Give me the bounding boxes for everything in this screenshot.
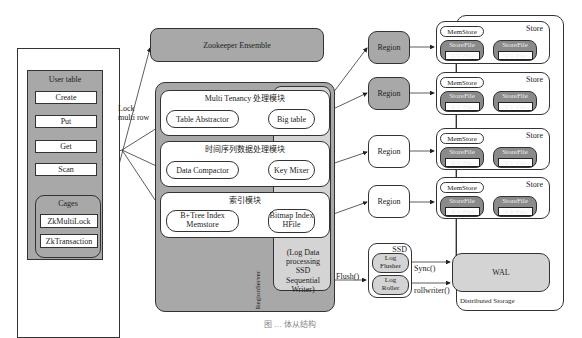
- store-label: Store: [526, 180, 543, 189]
- storefile[interactable]: StoreFile KV-File: [440, 91, 484, 112]
- kv-file: KV-File: [498, 102, 533, 111]
- storefile-label: StoreFile: [494, 41, 536, 49]
- region-server-label: RegionServer: [254, 271, 262, 310]
- region-1[interactable]: Region: [368, 31, 410, 64]
- table-abstractor[interactable]: Table Abstractor: [166, 110, 239, 128]
- module-title: Multi Tenancy 处理模块: [161, 94, 329, 103]
- memstore[interactable]: MemStore: [440, 26, 484, 37]
- storefile-label: StoreFile: [494, 92, 536, 100]
- lock-label-line1: Lock: [118, 104, 149, 113]
- user-table-title: User table: [28, 75, 102, 84]
- lock-label-line2: multi row: [118, 113, 149, 122]
- scan-button[interactable]: Scan: [35, 163, 97, 176]
- btree-index-memstore[interactable]: B+Tree Index Memstore: [166, 210, 239, 232]
- log-roller-line2: Roller: [382, 285, 400, 293]
- storefile[interactable]: StoreFile KV-File: [440, 40, 484, 61]
- storefile-label: StoreFile: [441, 41, 483, 49]
- storefile-label: StoreFile: [441, 197, 483, 205]
- memstore[interactable]: MemStore: [440, 182, 484, 193]
- storefile-label: StoreFile: [441, 92, 483, 100]
- store-label: Store: [526, 131, 543, 140]
- figure-caption: 图 … 体从结构: [200, 320, 380, 329]
- log-writer-line2: processing SSD: [278, 257, 328, 275]
- storefile-label: StoreFile: [441, 148, 483, 156]
- lock-label: Lock multi row: [118, 104, 149, 122]
- region-2[interactable]: Region: [368, 77, 410, 110]
- log-writer-line3: Sequential: [278, 276, 328, 285]
- storefile[interactable]: StoreFile KV-File: [493, 40, 537, 61]
- create-button[interactable]: Create: [35, 91, 97, 104]
- memstore[interactable]: MemStore: [440, 77, 484, 88]
- store-1: Store MemStore StoreFile KV-File StoreFi…: [436, 21, 550, 64]
- region-server-label-wrap: RegionServer: [251, 270, 265, 310]
- log-writer-line4: Writer): [278, 285, 328, 294]
- zkmultilock-button[interactable]: ZkMultiLock: [40, 214, 98, 228]
- kv-file: KV-File: [445, 207, 480, 216]
- memstore[interactable]: MemStore: [440, 133, 484, 144]
- data-compactor[interactable]: Data Compactor: [166, 161, 239, 179]
- kv-file: KV-File: [498, 51, 533, 60]
- storefile[interactable]: StoreFile KV-File: [493, 91, 537, 112]
- distributed-storage-label: Distributed Storage: [460, 297, 515, 305]
- kv-file: KV-File: [498, 158, 533, 167]
- kv-file: KV-File: [445, 102, 480, 111]
- zktransaction-button[interactable]: ZkTransaction: [40, 234, 98, 248]
- kv-file: KV-File: [445, 158, 480, 167]
- storefile[interactable]: StoreFile KV-File: [493, 147, 537, 168]
- region-3[interactable]: Region: [368, 135, 410, 168]
- kv-file: KV-File: [445, 51, 480, 60]
- zookeeper-ensemble[interactable]: Zookeeper Ensemble: [150, 28, 324, 62]
- flush-label: Flush(): [336, 272, 359, 281]
- region-4[interactable]: Region: [368, 185, 410, 218]
- store-2: Store MemStore StoreFile KV-File StoreFi…: [436, 72, 550, 115]
- store-4: Store MemStore StoreFile KV-File StoreFi…: [436, 177, 550, 219]
- cages-title: Cages: [36, 199, 100, 208]
- sync-label: Sync(): [414, 264, 435, 273]
- store-label: Store: [526, 24, 543, 33]
- store-3: Store MemStore StoreFile KV-File StoreFi…: [436, 128, 550, 170]
- storefile[interactable]: StoreFile KV-File: [440, 196, 484, 217]
- module-title: 时间序列数据处理模块: [161, 145, 329, 154]
- key-mixer[interactable]: Key Mixer: [268, 160, 315, 180]
- rollwriter-label: rollwriter(): [414, 286, 450, 295]
- log-writer-label: (Log Data processing SSD Sequential Writ…: [278, 248, 328, 294]
- log-flusher-line2: Flusher: [380, 263, 401, 271]
- storefile-label: StoreFile: [494, 148, 536, 156]
- module-title: 索引模块: [161, 196, 329, 205]
- log-flusher[interactable]: Log Flusher: [372, 253, 409, 273]
- get-button[interactable]: Get: [35, 140, 97, 153]
- big-table[interactable]: Big table: [268, 109, 315, 129]
- storefile[interactable]: StoreFile KV-File: [493, 196, 537, 217]
- put-button[interactable]: Put: [35, 115, 97, 128]
- log-roller[interactable]: Log Roller: [372, 275, 409, 295]
- wal[interactable]: WAL: [452, 253, 550, 292]
- storefile-label: StoreFile: [494, 197, 536, 205]
- storefile[interactable]: StoreFile KV-File: [440, 147, 484, 168]
- log-writer-line1: (Log Data: [278, 248, 328, 257]
- kv-file: KV-File: [498, 207, 533, 216]
- bitmap-index-hfile[interactable]: Bitmap Index HFile: [268, 209, 315, 233]
- store-label: Store: [526, 75, 543, 84]
- btree-line2: Memstore: [186, 221, 218, 230]
- bitmap-line2: HFile: [282, 221, 300, 230]
